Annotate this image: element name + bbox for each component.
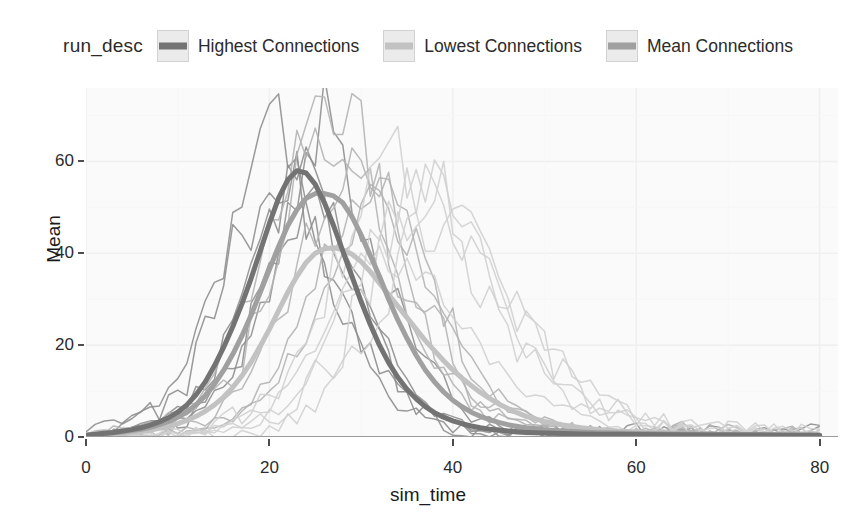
x-tick-label: 60 (627, 458, 646, 478)
legend-key-line (608, 43, 636, 50)
y-tick-label: 0 (65, 427, 74, 447)
y-tick-mark (78, 160, 84, 162)
y-tick-label: 60 (55, 151, 74, 171)
plot-canvas (86, 88, 838, 437)
x-tick-mark (85, 439, 87, 446)
x-axis-title: sim_time (0, 484, 856, 506)
legend-label-lowest-connections: Lowest Connections (424, 36, 582, 57)
x-tick-mark (819, 439, 821, 446)
legend-entry-highest-connections[interactable]: Highest Connections (157, 30, 359, 62)
gridlines (86, 88, 838, 437)
legend-key-mean-connections (606, 30, 638, 62)
x-tick-mark (635, 439, 637, 446)
x-tick-label: 40 (443, 458, 462, 478)
plot-panel (86, 88, 838, 437)
chart-legend: run_desc Highest Connections Lowest Conn… (0, 26, 856, 66)
y-tick-mark (78, 436, 84, 438)
legend-entry-mean-connections[interactable]: Mean Connections (606, 30, 793, 62)
legend-key-highest-connections (157, 30, 189, 62)
x-tick-label: 80 (810, 458, 829, 478)
y-tick-label: 20 (55, 335, 74, 355)
y-axis-title: Mean (43, 179, 65, 299)
legend-key-lowest-connections (383, 30, 415, 62)
y-tick-mark (78, 344, 84, 346)
legend-label-mean-connections: Mean Connections (647, 36, 793, 57)
legend-key-line (159, 43, 187, 50)
legend-entry-lowest-connections[interactable]: Lowest Connections (383, 30, 582, 62)
x-axis-line (86, 436, 838, 437)
chart-figure: run_desc Highest Connections Lowest Conn… (0, 0, 856, 530)
legend-title: run_desc (63, 35, 143, 57)
legend-key-line (385, 43, 413, 50)
legend-label-highest-connections: Highest Connections (198, 36, 359, 57)
x-tick-mark (268, 439, 270, 446)
x-tick-label: 20 (260, 458, 279, 478)
x-tick-label: 0 (81, 458, 90, 478)
x-tick-mark (452, 439, 454, 446)
y-tick-mark (78, 252, 84, 254)
